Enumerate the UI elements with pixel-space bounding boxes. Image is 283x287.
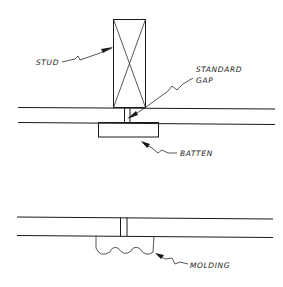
molding: [96, 236, 154, 254]
batten: [99, 123, 159, 138]
batten-joint-detail: STUD STANDARD GAP BATTEN: [18, 20, 275, 159]
batten-label: BATTEN: [180, 149, 213, 158]
gap-label-line2: GAP: [196, 76, 213, 85]
gap-label-line1: STANDARD: [196, 65, 242, 74]
joint-diagram: STUD STANDARD GAP BATTEN: [0, 0, 283, 287]
panel-gap: [121, 218, 128, 237]
stud: [114, 20, 146, 108]
upper-panel: [18, 108, 275, 125]
lower-panel: [17, 217, 273, 238]
stud-leader-arrow: [62, 47, 113, 62]
stud-label: STUD: [36, 58, 59, 67]
molding-leader-arrow: [155, 253, 188, 264]
molding-joint-detail: MOLDING: [17, 217, 273, 270]
standard-gap: [125, 108, 131, 123]
molding-label: MOLDING: [190, 261, 230, 270]
batten-leader-arrow: [141, 141, 177, 153]
